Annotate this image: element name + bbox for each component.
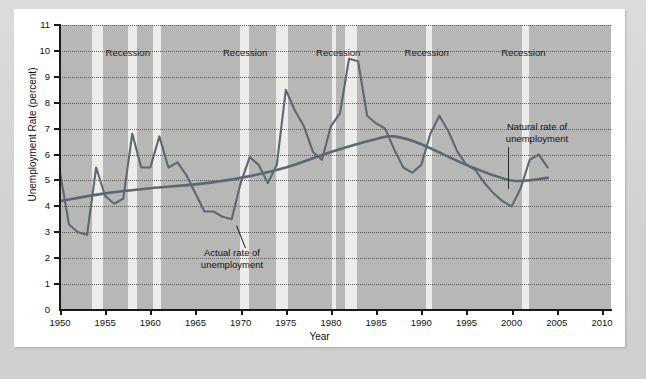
x-tick-label: 1965 (175, 317, 215, 328)
natural-rate-annotation-line1: Natural rate of (506, 121, 568, 133)
x-tick-label: 1950 (40, 317, 80, 328)
x-tick-label: 2000 (492, 317, 532, 328)
recession-label: Recession (106, 47, 150, 58)
x-tick (602, 309, 604, 315)
actual-rate-line (60, 59, 548, 235)
y-tick (54, 24, 61, 26)
x-tick-label: 2005 (537, 317, 577, 328)
x-tick-label: 1970 (221, 317, 261, 328)
natural-rate-annotation-line2: unemployment (506, 133, 568, 145)
y-tick (54, 231, 61, 233)
x-tick (557, 309, 559, 315)
y-tick (54, 102, 61, 104)
y-tick (54, 257, 61, 259)
series-lines (60, 25, 611, 310)
x-tick-label: 1990 (401, 317, 441, 328)
y-tick (54, 76, 61, 78)
natural-rate-annotation: Natural rate of unemployment (506, 121, 568, 144)
y-axis-label: Unemployment Rate (percent) (27, 25, 38, 245)
x-tick (331, 309, 333, 315)
x-tick-label: 1980 (311, 317, 351, 328)
x-tick (241, 309, 243, 315)
x-axis-line (59, 309, 612, 311)
y-tick (54, 179, 61, 181)
x-tick (512, 309, 514, 315)
unemployment-chart: RecessionRecessionRecessionRecessionRece… (14, 9, 625, 347)
page-background: RecessionRecessionRecessionRecessionRece… (0, 0, 646, 379)
y-tick-label: 1 (28, 279, 50, 289)
x-tick (286, 309, 288, 315)
recession-label: Recession (405, 47, 449, 58)
x-tick-label: 1955 (85, 317, 125, 328)
figure-card: RecessionRecessionRecessionRecessionRece… (14, 9, 625, 347)
x-tick (466, 309, 468, 315)
x-tick-label: 2010 (582, 317, 622, 328)
actual-rate-annotation: Actual rate of unemployment (201, 247, 263, 270)
y-tick-label: 0 (28, 305, 50, 315)
actual-rate-annotation-line2: unemployment (201, 259, 263, 271)
y-tick (54, 128, 61, 130)
y-tick (54, 50, 61, 52)
x-tick-label: 1985 (356, 317, 396, 328)
y-tick (54, 205, 61, 207)
y-tick (54, 154, 61, 156)
x-axis-label: Year (14, 331, 625, 342)
recession-label: Recession (223, 47, 267, 58)
x-tick-label: 1960 (130, 317, 170, 328)
y-tick-label: 2 (28, 253, 50, 263)
recession-label: Recession (501, 47, 545, 58)
recession-label: Recession (316, 47, 360, 58)
y-axis-line (59, 25, 61, 311)
y-tick (54, 283, 61, 285)
plot-area: RecessionRecessionRecessionRecessionRece… (60, 25, 611, 310)
x-tick (105, 309, 107, 315)
x-tick-label: 1975 (266, 317, 306, 328)
x-tick-label: 1995 (446, 317, 486, 328)
x-tick (376, 309, 378, 315)
actual-rate-annotation-line1: Actual rate of (201, 247, 263, 259)
natural-rate-line (60, 136, 548, 201)
x-tick (150, 309, 152, 315)
x-tick (60, 309, 62, 315)
natural-rate-leader-line (508, 147, 509, 189)
x-tick (195, 309, 197, 315)
x-tick (421, 309, 423, 315)
